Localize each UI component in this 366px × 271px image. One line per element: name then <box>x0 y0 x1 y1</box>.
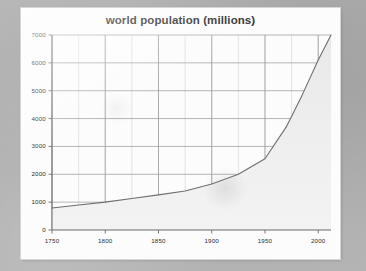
y-tick-label: 6000 <box>20 59 46 66</box>
y-tick-label: 0 <box>20 226 46 233</box>
y-tick-label: 3000 <box>20 142 46 149</box>
x-tick-label: 1850 <box>138 237 178 244</box>
plot-area: 01000200030004000500060007000 1750180018… <box>21 8 340 259</box>
scanned-page: world population (millions) 010002000300… <box>0 0 366 271</box>
x-tick-label: 1750 <box>32 237 72 244</box>
chart-card: world population (millions) 010002000300… <box>21 8 340 259</box>
x-tick-label: 1900 <box>192 237 232 244</box>
y-tick-label: 1000 <box>20 198 46 205</box>
y-tick-label: 2000 <box>20 170 46 177</box>
y-tick-label: 5000 <box>20 87 46 94</box>
series-area <box>52 35 331 230</box>
chart-svg <box>21 8 340 259</box>
y-tick-label: 4000 <box>20 115 46 122</box>
x-tick-label: 1800 <box>85 237 125 244</box>
x-tick-label: 1950 <box>245 237 285 244</box>
x-tick-label: 2000 <box>298 237 338 244</box>
y-tick-label: 7000 <box>20 31 46 38</box>
